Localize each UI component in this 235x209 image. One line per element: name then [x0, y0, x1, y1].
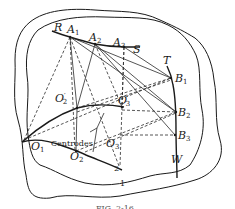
label-a1: A1: [66, 23, 79, 37]
label-o3: O3: [106, 137, 120, 151]
label-s: S: [133, 43, 141, 56]
dash-a1-o1: [24, 37, 70, 140]
label-t: T: [163, 54, 172, 67]
label-b3: B3: [177, 129, 191, 143]
label-body-1: 1: [120, 179, 125, 188]
point-o2p: [76, 107, 78, 109]
point-b3: [174, 134, 176, 136]
point-a1: [69, 36, 71, 38]
point-b2: [175, 111, 177, 113]
label-b2: B2: [177, 106, 191, 120]
label-a2: A2: [88, 31, 101, 45]
label-o2: O2: [70, 150, 84, 164]
label-body-2: 2: [114, 164, 119, 173]
label-centrodes: Centrodes: [51, 139, 93, 148]
label-r: R: [53, 21, 62, 34]
dash-a1-o2: [70, 37, 75, 150]
label-a3: A3: [112, 36, 125, 50]
label-o1: O1: [31, 140, 45, 154]
centrodes-diagram: R A1 A2 A3 S T B1 B2 B3 W O1 O2 O3 O′2 O…: [0, 0, 235, 209]
point-b1: [170, 77, 172, 79]
label-o2-prime: O′2: [55, 92, 67, 106]
dash-o3p-b2: [122, 110, 176, 112]
figure-caption: FIG. 2-16: [96, 204, 134, 209]
label-b1: B1: [174, 72, 188, 86]
line-a2-o2p: [77, 44, 95, 108]
line-a1-o2p: [70, 37, 77, 108]
label-w: W: [171, 153, 184, 166]
label-o3-prime: O′3: [118, 94, 130, 108]
dash-o2-b2h: [85, 113, 176, 152]
